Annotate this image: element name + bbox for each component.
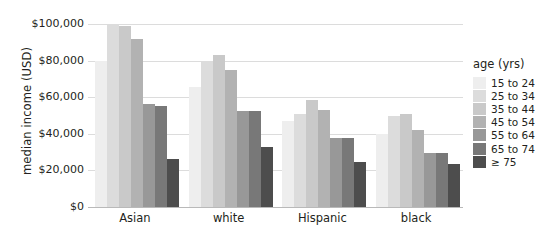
- bar: [282, 121, 294, 207]
- bar: [294, 114, 306, 207]
- bar: [376, 134, 388, 207]
- bar: [330, 138, 342, 207]
- bar: [436, 153, 448, 207]
- legend-swatch-icon: [473, 90, 486, 102]
- bar: [354, 162, 366, 207]
- y-axis-tick-label: $100,000: [4, 17, 84, 30]
- legend-item: 65 to 74: [473, 142, 545, 155]
- legend-item-label: 45 to 54: [491, 116, 535, 128]
- bar: [95, 61, 107, 207]
- legend-item-label: 65 to 74: [491, 143, 535, 155]
- bar: [412, 130, 424, 207]
- y-axis-tick-label: $60,000: [4, 90, 84, 103]
- bar: [225, 70, 237, 207]
- bar: [318, 110, 330, 207]
- bar: [342, 138, 354, 207]
- bar: [155, 106, 167, 207]
- plot-area: [88, 24, 463, 207]
- bar: [201, 62, 213, 207]
- bar-group-white: [189, 24, 273, 207]
- legend-items: 15 to 2425 to 3435 to 4445 to 5455 to 64…: [473, 76, 545, 168]
- legend-swatch-icon: [473, 77, 486, 89]
- bar-chart-figure: median income (USD) $0$20,000$40,000$60,…: [0, 0, 545, 238]
- bar-group-asian: [95, 24, 179, 207]
- bar-group-hispanic: [282, 24, 366, 207]
- gridline: [88, 207, 463, 208]
- legend-item-label: 15 to 24: [491, 77, 535, 89]
- legend-item-label: 25 to 34: [491, 90, 535, 102]
- y-axis-tick-label: $20,000: [4, 163, 84, 176]
- legend-title: age (yrs): [473, 57, 545, 71]
- bar: [249, 111, 261, 207]
- legend-item-label: 35 to 44: [491, 103, 535, 115]
- legend-item: 25 to 34: [473, 89, 545, 102]
- legend-swatch-icon: [473, 143, 486, 155]
- legend-item: ≥ 75: [473, 155, 545, 168]
- legend: age (yrs) 15 to 2425 to 3435 to 4445 to …: [473, 57, 545, 168]
- x-axis-tick-label-white: white: [182, 211, 276, 225]
- bar: [424, 153, 436, 207]
- bar: [237, 111, 249, 207]
- y-axis-tick-label: $80,000: [4, 54, 84, 67]
- bar: [213, 55, 225, 207]
- legend-item: 45 to 54: [473, 116, 545, 129]
- legend-item: 15 to 24: [473, 76, 545, 89]
- legend-swatch-icon: [473, 116, 486, 128]
- legend-item: 55 to 64: [473, 129, 545, 142]
- legend-swatch-icon: [473, 156, 486, 168]
- bar-group-black: [376, 24, 460, 207]
- bar: [400, 114, 412, 207]
- bar: [306, 100, 318, 207]
- bar: [131, 39, 143, 207]
- legend-item-label: 55 to 64: [491, 129, 535, 141]
- x-axis-tick-label-black: black: [369, 211, 463, 225]
- bar: [388, 116, 400, 208]
- legend-item: 35 to 44: [473, 102, 545, 115]
- x-axis-tick-label-hispanic: Hispanic: [276, 211, 370, 225]
- y-axis-tick-label: $40,000: [4, 127, 84, 140]
- bar: [119, 26, 131, 207]
- legend-item-label: ≥ 75: [491, 156, 517, 168]
- y-axis-tick-label: $0: [4, 200, 84, 213]
- legend-swatch-icon: [473, 103, 486, 115]
- x-axis-tick-label-asian: Asian: [88, 211, 182, 225]
- bar: [107, 24, 119, 207]
- bar: [143, 104, 155, 207]
- bar: [189, 87, 201, 207]
- legend-swatch-icon: [473, 129, 486, 141]
- bar: [261, 147, 273, 207]
- bar: [448, 164, 460, 207]
- bar: [167, 159, 179, 207]
